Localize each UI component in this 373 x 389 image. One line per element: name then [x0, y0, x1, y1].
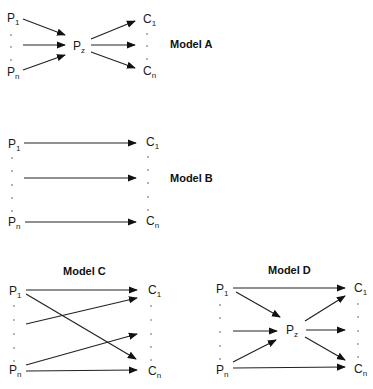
model-b-pn: Pn [8, 215, 20, 231]
model-c-c1: C1 [148, 283, 162, 299]
model-b-c1: C1 [146, 135, 160, 151]
model-d-edge-pn-cn [233, 367, 345, 368]
model-d-edge-pz-c1 [305, 296, 345, 321]
model-a-pz: Pz [73, 39, 85, 55]
model-b: P1 Pn C1 Cn Model B [8, 135, 213, 231]
model-a-source-ellipsis [10, 34, 11, 60]
model-d-pn: Pn [216, 363, 228, 379]
model-d-edge-p1-pz [236, 292, 280, 317]
model-a-p1: P1 [7, 11, 20, 27]
model-d-target-ellipsis [357, 303, 358, 357]
model-a-cn: Cn [143, 64, 156, 80]
model-a-pn: Pn [7, 65, 19, 81]
model-a-edge-p1-pz [23, 19, 65, 35]
model-a-edge-pn-pz [23, 55, 65, 70]
model-a-edge-pz-c1 [91, 21, 135, 39]
model-c: Model C P1 Pn C1 Cn [9, 265, 162, 380]
model-b-p1: P1 [8, 137, 21, 153]
model-c-pn: Pn [9, 363, 21, 379]
model-c-edge-pn-cn [26, 370, 137, 371]
model-b-target-ellipsis [147, 156, 148, 210]
model-a-title: Model A [170, 38, 212, 50]
model-a: P1 Pn Pz C1 Cn Model A [7, 11, 212, 81]
model-c-source-ellipsis [13, 305, 14, 361]
model-d-pz: Pz [286, 323, 298, 339]
model-d: Model D P1 Pn Pz C1 Cn [216, 264, 368, 379]
model-a-c1: C1 [143, 12, 157, 28]
model-b-title: Model B [170, 172, 213, 184]
model-d-p1: P1 [216, 282, 229, 298]
model-d-c1: C1 [354, 281, 368, 297]
model-b-source-ellipsis [11, 157, 12, 211]
model-d-cn: Cn [354, 362, 367, 378]
model-b-cn: Cn [146, 214, 159, 230]
model-c-title: Model C [63, 265, 106, 277]
model-d-edge-pn-pz [233, 340, 276, 362]
model-d-source-ellipsis [219, 304, 220, 359]
model-a-edge-pz-cn [91, 52, 135, 68]
models-diagram: P1 Pn Pz C1 Cn Model A P1 Pn C1 Cn [0, 0, 373, 389]
model-d-title: Model D [268, 264, 311, 276]
model-c-cn: Cn [148, 364, 161, 380]
model-c-target-ellipsis [150, 305, 151, 360]
model-c-edge-pmid-c1 [26, 298, 137, 324]
model-c-p1: P1 [9, 284, 22, 300]
model-d-edge-pz-cn [305, 337, 345, 360]
model-a-target-ellipsis [146, 33, 147, 59]
